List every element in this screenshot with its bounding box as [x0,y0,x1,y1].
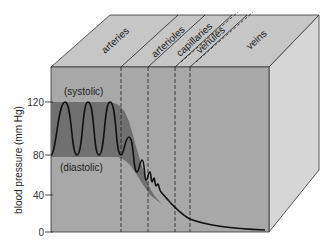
y-axis-label: blood pressure (mm Hg) [13,106,24,214]
y-tick-120: 120 [27,97,44,108]
y-tick-0: 0 [38,227,44,238]
systolic-label: (systolic) [64,86,103,97]
y-tick-80: 80 [33,150,45,161]
blood-pressure-diagram: 120 80 40 0 blood pressure (mm Hg) (syst… [0,0,333,250]
diastolic-label: (diastolic) [60,162,103,173]
y-tick-40: 40 [33,190,45,201]
y-axis: 120 80 40 0 blood pressure (mm Hg) [13,97,53,238]
